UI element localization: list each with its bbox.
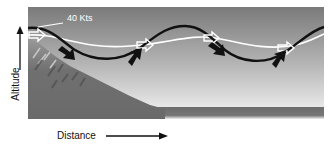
distance-axis-label: Distance (57, 130, 96, 142)
mountain-wave-figure: 40 Kts Altitude Distance (0, 0, 336, 150)
wind-speed-label: 40 Kts (67, 13, 93, 23)
arrow-right-icon (159, 133, 168, 140)
arrow-up-icon (17, 26, 24, 34)
altitude-axis-label: Altitude (10, 62, 22, 106)
diagram-canvas (0, 0, 336, 150)
distance-axis-arrow (106, 133, 168, 140)
